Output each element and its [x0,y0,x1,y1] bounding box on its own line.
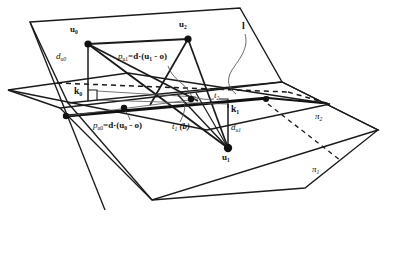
label-p-u0-body: =d·(u [103,120,124,130]
label-d-u1-sub: u1 [236,127,242,133]
label-p-u1-body: =d·(u [128,51,149,61]
label-d-u1: du1 [231,123,241,133]
diagram-canvas: u0 u2 u1 k0 k1 du0 du1 pu1=d·(u1 - o) pu… [0,0,393,277]
label-p-u1-tail: - o) [152,51,167,61]
label-pi2: π2 [315,112,322,122]
label-pi1: π1 [312,165,319,175]
point-u1 [224,144,232,152]
label-t2-sub: 2 [217,95,220,101]
label-t2: t2 [214,91,219,101]
label-k0-sub: 0 [79,91,82,97]
label-t1-suffix: (b) [177,121,190,131]
label-p-u0-equation: pu0=d·(u0 - o) [93,121,142,131]
geometry-svg [0,0,393,277]
label-u1-sub: 1 [227,157,230,163]
label-line-l-text: l [242,20,245,31]
label-pi1-sub: 1 [317,169,320,175]
point-u2 [184,35,191,42]
label-u1: u1 [222,153,230,163]
segment-u0-u2 [88,39,188,44]
right-angle-k0 [88,90,97,100]
left-edge-b [68,103,152,200]
label-t1: t1 (b) [172,122,190,132]
point-p-u1 [188,96,194,102]
ray-u2-to-u1 [188,39,228,148]
point-u0 [84,40,91,47]
label-k1-sub: 1 [236,109,239,115]
leader-l [229,34,246,94]
label-k0: k0 [74,87,82,98]
label-k1: k1 [231,105,239,116]
point-o [63,113,69,119]
label-u2: u2 [179,20,187,30]
label-pi2-sub: 2 [320,116,323,122]
point-p-u0 [121,105,127,111]
point-l-right [263,96,269,102]
label-u0-sub: 0 [75,29,78,35]
label-d-u0: du0 [56,52,66,62]
label-p-u0-tail: - o) [127,120,142,130]
label-u0: u0 [70,25,78,35]
label-d-u0-sub: u0 [61,56,67,62]
label-line-l: l [242,21,245,31]
leader-t1 [180,100,185,122]
label-u2-sub: 2 [184,24,187,30]
label-p-u1-equation: pu1=d·(u1 - o) [118,52,167,62]
dashed-edge-lower-right [268,104,340,160]
